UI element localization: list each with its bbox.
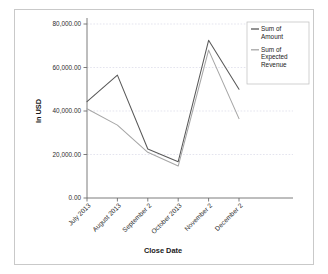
x-tick-label: September 2 (121, 202, 154, 235)
x-tick-label: October 2013 (150, 202, 183, 235)
y-axis-title: In USD (34, 98, 43, 123)
legend-label-2: Revenue (261, 61, 287, 68)
y-tick-label: 0.00 (69, 194, 82, 201)
y-tick-label: 80,000.00 (53, 20, 82, 27)
x-axis-title: Close Date (144, 246, 182, 255)
line-chart: 0.0020,000.0040,000.0060,000.0080,000.00… (15, 10, 315, 266)
y-tick-label: 40,000.00 (53, 107, 82, 114)
legend-label-1: Amount (261, 33, 283, 40)
chart-frame: 0.0020,000.0040,000.0060,000.0080,000.00… (14, 9, 314, 265)
y-tick-label: 20,000.00 (53, 151, 82, 158)
x-tick-label: July 2013 (67, 202, 93, 228)
series-line-1 (87, 40, 239, 161)
chart-plot-area: 0.0020,000.0040,000.0060,000.0080,000.00… (15, 10, 313, 264)
legend-label-1: Sum of (261, 25, 281, 32)
y-tick-label: 60,000.00 (53, 64, 82, 71)
x-tick-label: August 2013 (91, 202, 123, 234)
x-tick-label: November 2 (183, 202, 214, 233)
legend-label-2: Sum of (261, 46, 281, 53)
x-tick-label: December 2 (213, 202, 244, 233)
